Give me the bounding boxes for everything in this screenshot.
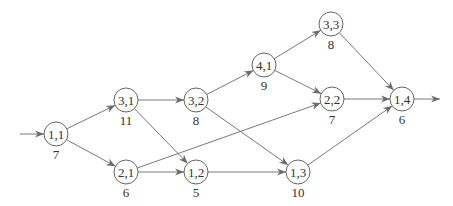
node-3-1: 3,111 — [114, 88, 138, 128]
node-1-3: 1,310 — [286, 160, 310, 200]
edge-4-1-to-2-2 — [275, 70, 322, 93]
edge-3-2-to-1-3 — [206, 107, 288, 165]
dag-diagram: 1,173,1112,163,281,254,191,3103,382,271,… — [0, 0, 453, 206]
node-label: 1,1 — [48, 127, 64, 142]
node-weight: 7 — [53, 147, 60, 162]
node-1-4: 1,46 — [390, 87, 414, 127]
node-weight: 8 — [193, 113, 200, 128]
node-weight: 6 — [399, 112, 406, 127]
node-4-1: 4,19 — [252, 53, 276, 93]
edge-3-1-to-1-2 — [134, 109, 187, 164]
node-label: 2,1 — [118, 165, 134, 180]
node-label: 3,3 — [323, 17, 339, 32]
edge-1-1-to-2-1 — [67, 140, 116, 167]
edge-3-2-to-4-1 — [207, 70, 254, 94]
node-label: 3,1 — [118, 93, 134, 108]
node-3-3: 3,38 — [319, 12, 343, 52]
edge-3-3-to-1-4 — [339, 33, 394, 91]
edge-1-1-to-3-1 — [67, 105, 115, 129]
node-3-2: 3,28 — [184, 88, 208, 128]
node-weight: 8 — [328, 37, 335, 52]
node-2-2: 2,27 — [320, 87, 344, 127]
edge-4-1-to-3-3 — [274, 30, 321, 58]
node-label: 1,2 — [188, 165, 204, 180]
node-label: 1,3 — [290, 165, 306, 180]
edge-1-3-to-1-4 — [308, 106, 392, 165]
edge-2-1-to-2-2 — [137, 103, 320, 168]
node-label: 1,4 — [394, 92, 411, 107]
node-weight: 7 — [329, 112, 336, 127]
node-1-2: 1,25 — [184, 160, 208, 200]
node-1-1: 1,17 — [44, 122, 68, 162]
node-weight: 5 — [193, 185, 200, 200]
node-weight: 6 — [123, 185, 130, 200]
node-label: 4,1 — [256, 58, 272, 73]
node-2-1: 2,16 — [114, 160, 138, 200]
edges-layer — [20, 30, 440, 172]
node-weight: 11 — [120, 113, 133, 128]
node-weight: 9 — [261, 78, 268, 93]
node-label: 3,2 — [188, 93, 204, 108]
node-label: 2,2 — [324, 92, 340, 107]
node-weight: 10 — [292, 185, 305, 200]
